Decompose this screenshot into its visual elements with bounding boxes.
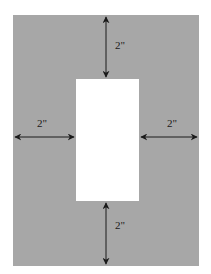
top-dimension-label: 2" xyxy=(115,39,125,51)
bottom-dimension-label: 2" xyxy=(115,219,125,231)
mat-diagram: 2" 2" 2" 2" xyxy=(0,0,211,274)
left-dimension-label: 2" xyxy=(37,117,47,129)
right-dimension-label: 2" xyxy=(167,117,177,129)
mat-opening xyxy=(76,79,139,201)
